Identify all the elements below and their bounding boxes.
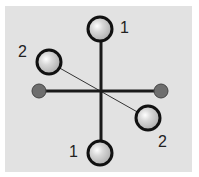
ball-upper-left	[37, 50, 61, 74]
small-ball-left	[32, 84, 46, 98]
label-upper-left-ball: 2	[18, 44, 27, 60]
ball-top	[88, 17, 112, 41]
small-ball-right	[154, 84, 168, 98]
label-bottom-ball: 1	[69, 144, 78, 160]
diagram-canvas	[0, 0, 199, 177]
label-top-ball: 1	[120, 20, 129, 36]
label-lower-right-ball: 2	[158, 134, 167, 150]
ball-lower-right	[136, 106, 160, 130]
ball-bottom	[88, 141, 112, 165]
